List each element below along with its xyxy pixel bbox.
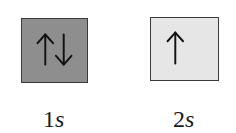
orbital-box-1s (21, 18, 88, 83)
electron-up-icon (151, 18, 218, 80)
orbital-label-2s: 2s (173, 107, 194, 131)
orbital-box-2s (150, 17, 219, 81)
orbital-number: 2 (173, 106, 185, 132)
orbital-number: 1 (43, 106, 55, 132)
orbital-letter: s (55, 106, 64, 132)
orbital-label-1s: 1s (43, 107, 64, 131)
electron-pair-icon (22, 19, 87, 82)
orbital-letter: s (185, 106, 194, 132)
